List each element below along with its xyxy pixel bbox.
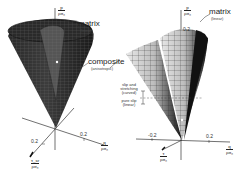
left-tau-tick: 0.2 xyxy=(31,139,38,144)
right-point-marker xyxy=(181,119,183,121)
right-q-pos-tick: 0.2 xyxy=(206,134,213,139)
left-composite-sublabel: (anisotropic) xyxy=(91,67,113,71)
left-tau-axis-label: τ_sr ρσ₀ xyxy=(31,158,39,169)
right-tau-axis-label: τ ρσ₀ xyxy=(160,151,167,162)
left-q-tick: 0.2 xyxy=(80,132,87,137)
left-matrix-label: matrix xyxy=(78,20,100,28)
right-q-axis-label: q ρσ₀ xyxy=(226,144,233,155)
left-composite-label: composite xyxy=(88,58,124,66)
left-p-axis-label: p ρσ₀ xyxy=(58,5,65,16)
right-p-axis-label: p ρσ₀ xyxy=(184,5,191,16)
right-q-axis xyxy=(136,139,230,142)
right-matrix-label: matrix xyxy=(209,8,231,16)
left-q-axis-label: q ρσ₀ xyxy=(101,140,108,151)
pure-slip-label: pure slip (linear) xyxy=(117,99,141,107)
right-tau-axis xyxy=(162,140,182,150)
right-q-neg-tick: -0.2 xyxy=(148,133,157,138)
left-matrix-sublabel: (linear) xyxy=(80,29,92,33)
right-matrix-sublabel: (linear) xyxy=(211,17,223,21)
right-p-tick: 0.2 xyxy=(183,27,190,32)
left-point-marker xyxy=(56,61,58,63)
slip-stretching-label: slip and stretching (curved) xyxy=(117,83,141,95)
